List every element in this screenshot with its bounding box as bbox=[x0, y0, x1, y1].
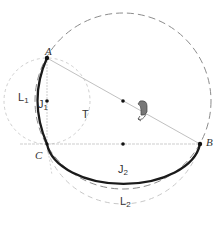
label-b: B bbox=[206, 136, 213, 148]
point-b bbox=[198, 142, 202, 146]
point-midpoint-ab bbox=[121, 99, 125, 103]
geometry-diagram: A B C T L1 J1 J2 L2 bbox=[0, 0, 224, 229]
bold-arc-cb bbox=[47, 144, 200, 184]
label-c: C bbox=[35, 149, 43, 161]
rotation-arrow-icon bbox=[138, 101, 147, 121]
point-c bbox=[45, 142, 48, 145]
label-l2: L2 bbox=[120, 195, 131, 209]
label-t: T bbox=[82, 108, 89, 120]
label-l1: L1 bbox=[18, 91, 29, 105]
label-j2: J2 bbox=[118, 163, 129, 177]
label-a: A bbox=[44, 45, 52, 57]
point-j2 bbox=[121, 142, 125, 146]
